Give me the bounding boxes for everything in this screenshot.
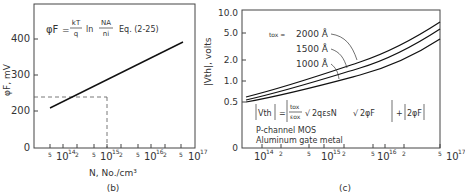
svg-text:10: 10: [254, 151, 267, 162]
note-p-channel: P-channel MOS: [256, 126, 316, 135]
svg-text:+: +: [396, 109, 403, 118]
svg-text:q: q: [74, 30, 78, 38]
y-axis-label-b: φF, mV: [2, 63, 12, 96]
equation-b: φF = kT q ln NA ni Eq. (2-25): [46, 19, 159, 38]
svg-text:5: 5: [48, 151, 52, 158]
y-axis-c: [242, 33, 246, 102]
svg-text:10: 10: [56, 151, 69, 162]
svg-text:εox: εox: [290, 113, 301, 120]
svg-text:2: 2: [75, 151, 79, 158]
panel-label-c: (c): [339, 183, 351, 193]
svg-text:φF: φF: [46, 24, 59, 35]
y-tick-label: 0: [232, 143, 238, 153]
svg-text:=: =: [279, 109, 286, 118]
svg-text:16: 16: [389, 148, 397, 155]
svg-text:√: √: [353, 109, 359, 118]
svg-text:15: 15: [112, 148, 120, 155]
svg-text:2φF: 2φF: [407, 109, 422, 118]
y-tick-label: 0.5: [224, 97, 238, 107]
note-gate-metal: Aluminum gate metal: [256, 136, 343, 145]
y-axis-b: [34, 39, 38, 111]
svg-text:5: 5: [438, 150, 442, 157]
svg-text:17: 17: [200, 148, 208, 155]
y-tick-label: 5.0: [224, 28, 239, 38]
svg-text:√: √: [305, 109, 311, 118]
y-tick-label: 2.0: [224, 55, 239, 65]
phi-f-line: [50, 42, 183, 108]
svg-text:14: 14: [266, 148, 274, 155]
svg-text:1500 Å: 1500 Å: [296, 43, 329, 54]
chart-b: 400 300 200 0 φF, mV 5 2 5 2 5 2 5: [2, 4, 208, 193]
svg-text:ln: ln: [86, 25, 93, 34]
svg-text:ni: ni: [103, 30, 109, 38]
y-tick-label: 300: [11, 69, 30, 80]
svg-text:5: 5: [179, 151, 183, 158]
svg-text:2φF: 2φF: [360, 109, 375, 118]
panel-label-b: (b): [107, 183, 120, 193]
svg-text:5: 5: [307, 150, 311, 157]
x-tick-labels-c: 2 5 2 5 2 5: [279, 150, 442, 157]
curve-labels: tox = 2000 Å 1500 Å 1000 Å: [269, 28, 329, 69]
svg-text:=: =: [62, 25, 70, 35]
x-axis-label-b: N, No./cm³: [89, 168, 137, 178]
svg-text:2: 2: [402, 150, 406, 157]
svg-text:10: 10: [188, 151, 201, 162]
svg-text:5: 5: [371, 150, 375, 157]
svg-text:Vth: Vth: [258, 109, 272, 118]
svg-text:2qεsN: 2qεsN: [312, 109, 337, 118]
svg-text:2: 2: [342, 150, 346, 157]
svg-text:16: 16: [156, 148, 164, 155]
y-tick-label: 1.0: [224, 76, 239, 86]
figure: 400 300 200 0 φF, mV 5 2 5 2 5 2 5: [0, 0, 465, 196]
y-tick-label: 0: [24, 142, 30, 153]
svg-text:Eq. (2-25): Eq. (2-25): [119, 25, 159, 34]
y-tick-label: 400: [11, 33, 30, 44]
y-axis-label-c: |Vth|, volts: [203, 37, 213, 86]
x-decade-labels-c: 10 14 10 15 10 16 10 17: [254, 148, 465, 162]
svg-text:2: 2: [279, 150, 283, 157]
svg-text:17: 17: [458, 148, 465, 155]
svg-text:1000 Å: 1000 Å: [296, 58, 329, 69]
svg-text:10: 10: [321, 151, 334, 162]
svg-text:2: 2: [163, 151, 167, 158]
svg-text:kT: kT: [72, 19, 81, 27]
svg-text:10: 10: [377, 151, 390, 162]
svg-text:10: 10: [144, 151, 157, 162]
y-tick-label: 200: [11, 105, 30, 116]
svg-text:5: 5: [92, 151, 96, 158]
y-tick-label: 10.0: [218, 8, 238, 18]
svg-text:NA: NA: [101, 19, 111, 27]
svg-text:15: 15: [333, 148, 341, 155]
svg-text:2000 Å: 2000 Å: [296, 28, 329, 39]
svg-text:10: 10: [446, 151, 459, 162]
equation-c-text: Vth = tox εox √ 2qεsN √ 2φF + 2φF: [258, 103, 422, 120]
svg-text:10: 10: [100, 151, 113, 162]
svg-text:2: 2: [119, 151, 123, 158]
svg-text:tox =: tox =: [269, 31, 285, 38]
svg-text:5: 5: [136, 151, 140, 158]
svg-text:tox: tox: [290, 103, 300, 110]
svg-text:14: 14: [68, 148, 76, 155]
chart-c: 10.0 5.0 2.0 1.0 0.5 0 |Vth|, volts 2 5 …: [203, 8, 465, 193]
